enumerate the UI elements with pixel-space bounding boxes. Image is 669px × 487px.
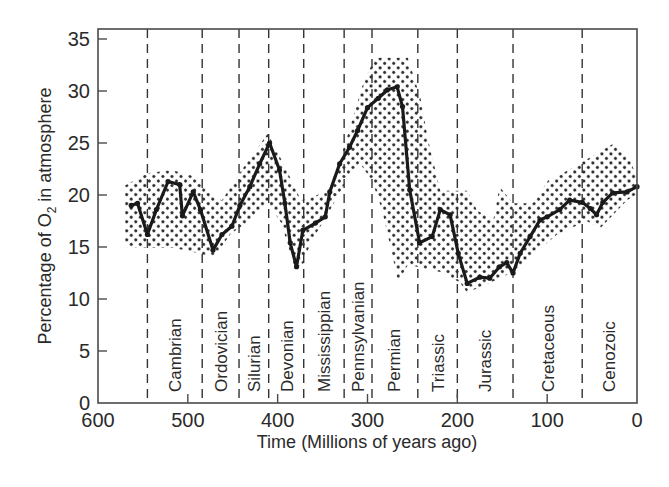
period-label-jurassic: Jurassic xyxy=(476,329,495,392)
plot-area: CambrianOrdovicianSilurianDevonianMissis… xyxy=(125,29,640,403)
o2-history-chart: CambrianOrdovicianSilurianDevonianMissis… xyxy=(0,0,669,487)
data-point xyxy=(337,161,342,166)
y-tick-label: 5 xyxy=(79,340,90,362)
y-tick-label: 20 xyxy=(68,184,90,206)
data-point xyxy=(180,213,185,218)
data-point xyxy=(407,187,412,192)
data-point xyxy=(145,232,150,237)
x-tick-label: 400 xyxy=(261,409,294,431)
data-point xyxy=(400,104,405,109)
data-point xyxy=(247,184,252,189)
data-point xyxy=(610,190,615,195)
period-label-cambrian: Cambrian xyxy=(166,318,185,392)
data-point xyxy=(600,200,605,205)
period-label-permian: Permian xyxy=(385,329,404,392)
x-tick-label: 200 xyxy=(441,409,474,431)
x-tick-label: 500 xyxy=(171,409,204,431)
period-label-cretaceous: Cretaceous xyxy=(539,305,558,392)
data-point xyxy=(527,234,532,239)
data-point xyxy=(198,207,203,212)
data-point xyxy=(497,264,502,269)
data-point xyxy=(347,145,352,150)
data-point xyxy=(448,212,453,217)
data-point xyxy=(430,234,435,239)
data-point xyxy=(327,189,332,194)
data-point xyxy=(537,217,542,222)
data-point xyxy=(191,189,196,194)
data-point xyxy=(365,105,370,110)
data-point xyxy=(510,270,515,275)
y-tick-label: 15 xyxy=(68,236,90,258)
data-point xyxy=(282,201,287,206)
y-axis-title: Percentage of O2 in atmosphere xyxy=(35,88,59,345)
data-point xyxy=(465,281,470,286)
data-point xyxy=(229,224,234,229)
data-point xyxy=(518,251,523,256)
data-point xyxy=(417,240,422,245)
data-point xyxy=(277,167,282,172)
period-labels: CambrianOrdovicianSilurianDevonianMissis… xyxy=(166,281,619,392)
period-label-mississippian: Mississippian xyxy=(315,291,334,392)
x-axis: 6005004003002001000 xyxy=(81,394,642,431)
y-tick-label: 30 xyxy=(68,80,90,102)
x-tick-label: 100 xyxy=(530,409,563,431)
data-point xyxy=(219,232,224,237)
data-point xyxy=(545,214,550,219)
data-point xyxy=(165,179,170,184)
x-tick-label: 0 xyxy=(631,409,642,431)
data-point xyxy=(237,203,242,208)
data-point xyxy=(385,87,390,92)
period-label-triassic: Triassic xyxy=(429,334,448,392)
y-tick-label: 35 xyxy=(68,28,90,50)
data-point xyxy=(588,206,593,211)
data-point xyxy=(288,240,293,245)
period-label-silurian: Silurian xyxy=(245,335,264,392)
data-point xyxy=(504,260,509,265)
data-point xyxy=(456,251,461,256)
data-point xyxy=(323,214,328,219)
y-axis-title-prefix: Percentage of O xyxy=(35,213,55,344)
data-point xyxy=(395,84,400,89)
data-point xyxy=(267,140,272,145)
y-tick-label: 10 xyxy=(68,288,90,310)
data-point xyxy=(487,276,492,281)
x-tick-label: 300 xyxy=(351,409,384,431)
period-label-pennsylvanian: Pennsylvanian xyxy=(349,281,368,392)
data-point xyxy=(625,189,630,194)
data-point xyxy=(294,264,299,269)
data-point xyxy=(135,201,140,206)
data-point xyxy=(313,220,318,225)
data-point xyxy=(154,207,159,212)
period-label-cenozoic: Cenozoic xyxy=(600,321,619,392)
x-axis-title: Time (Millions of years ago) xyxy=(257,432,477,452)
data-point xyxy=(257,161,262,166)
data-point xyxy=(580,200,585,205)
data-point xyxy=(567,198,572,203)
y-tick-label: 25 xyxy=(68,132,90,154)
y-axis-title-suffix: in atmosphere xyxy=(35,88,55,207)
data-point xyxy=(355,128,360,133)
data-point xyxy=(557,207,562,212)
data-point xyxy=(300,228,305,233)
x-tick-label: 600 xyxy=(81,409,114,431)
data-point xyxy=(594,212,599,217)
data-point xyxy=(477,275,482,280)
data-point xyxy=(376,96,381,101)
period-label-devonian: Devonian xyxy=(278,320,297,392)
y-axis: 05101520253035 xyxy=(68,28,107,414)
period-label-ordovician: Ordovician xyxy=(212,311,231,392)
data-point xyxy=(210,248,215,253)
data-point xyxy=(129,203,134,208)
data-point xyxy=(438,207,443,212)
data-point xyxy=(177,182,182,187)
